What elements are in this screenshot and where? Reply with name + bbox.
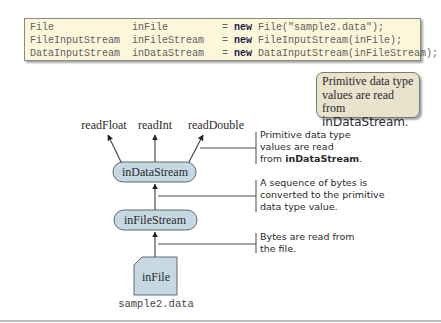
- note-line: A sequence of bytes is: [260, 177, 385, 189]
- method-read-int: readInt: [138, 118, 173, 132]
- file-name: sample2.data: [118, 298, 194, 310]
- stream-diagram: readFloat readInt readDouble inDataStrea…: [0, 0, 441, 323]
- in-file-stream-label: inFileStream: [124, 213, 187, 227]
- file-label: inFile: [142, 270, 170, 284]
- note-primitive-values: Primitive data type values are read from…: [260, 129, 362, 165]
- note-line: converted to the primitive: [260, 189, 385, 201]
- method-read-double: readDouble: [188, 118, 244, 132]
- note-line: from inDataStream.: [260, 153, 362, 165]
- method-read-float: readFloat: [81, 118, 127, 132]
- note-line: data type value.: [260, 201, 385, 213]
- bottom-divider: [0, 320, 441, 322]
- arrow-read-float: [108, 135, 122, 164]
- note-text: .: [359, 153, 362, 164]
- note-line: the file.: [260, 243, 355, 255]
- note-line: Primitive data type: [260, 129, 362, 141]
- arrow-read-double: [188, 135, 203, 164]
- note-text: from: [260, 153, 285, 164]
- note-bytes-read: Bytes are read from the file.: [260, 231, 355, 255]
- note-line: values are read: [260, 141, 362, 153]
- note-stream-name: inDataStream: [285, 153, 359, 164]
- in-data-stream-label: inDataStream: [122, 165, 189, 179]
- note-bytes-converted: A sequence of bytes is converted to the …: [260, 177, 385, 213]
- note-line: Bytes are read from: [260, 231, 355, 243]
